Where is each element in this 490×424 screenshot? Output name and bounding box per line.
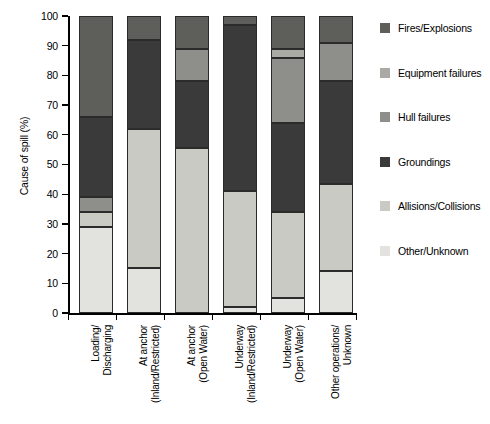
- legend-item-5[interactable]: Allisions/Collisions: [380, 200, 480, 212]
- y-tick-label: 10: [47, 277, 58, 289]
- legend-swatch-icon: [380, 112, 390, 122]
- legend-label: Equipment failures: [398, 67, 481, 79]
- legend-item-1[interactable]: Fires/Explosions: [380, 22, 472, 34]
- x-tick: [212, 313, 213, 320]
- x-axis-label-4: Underway(Inland/Restricted): [234, 325, 257, 424]
- y-axis-line: [68, 16, 70, 313]
- bar-segment: [271, 298, 305, 313]
- x-axis-label-line: (Inland/Restricted): [150, 325, 162, 424]
- legend-item-3[interactable]: Hull failures: [380, 111, 450, 123]
- bar-segment: [175, 16, 209, 49]
- x-axis-label-line: Unknown: [342, 325, 354, 424]
- x-axis-label-1: Loading/Discharging: [90, 325, 113, 424]
- y-tick-label: 80: [47, 69, 58, 81]
- x-axis-label-2: At anchor(Inland/Restricted): [138, 325, 161, 424]
- x-axis-label-line: Discharging: [102, 325, 114, 424]
- x-axis-label-line: (Open Water): [294, 325, 306, 424]
- legend-item-6[interactable]: Other/Unknown: [380, 245, 468, 257]
- bar-segment: [127, 16, 161, 40]
- bar-segment: [223, 191, 257, 307]
- y-tick: 10: [62, 283, 68, 284]
- x-tick: [164, 313, 165, 320]
- y-tick: 70: [62, 104, 68, 105]
- y-tick-label: 30: [47, 218, 58, 230]
- legend-item-4[interactable]: Groundings: [380, 156, 450, 168]
- y-tick: 30: [62, 223, 68, 224]
- x-axis-label-3: At anchor(Open Water): [186, 325, 209, 424]
- x-axis-label-5: Underway(Open Water): [282, 325, 305, 424]
- bar-segment: [271, 123, 305, 212]
- legend-label: Groundings: [398, 156, 450, 168]
- legend-item-2[interactable]: Equipment failures: [380, 67, 481, 79]
- bar-segment: [175, 148, 209, 313]
- y-tick-label: 90: [47, 40, 58, 52]
- bar-segment: [223, 16, 257, 25]
- bar-segment: [223, 25, 257, 191]
- legend-swatch-icon: [380, 157, 390, 167]
- bar-5: [271, 16, 305, 313]
- x-tick: [68, 313, 69, 320]
- y-tick: 60: [62, 134, 68, 135]
- y-tick: 40: [62, 194, 68, 195]
- bar-segment: [271, 16, 305, 49]
- x-axis-label-line: At anchor: [138, 325, 150, 424]
- x-axis-label-line: (Inland/Restricted): [246, 325, 258, 424]
- y-tick: 20: [62, 253, 68, 254]
- bar-segment: [175, 81, 209, 148]
- bar-2: [127, 16, 161, 313]
- bar-segment: [319, 81, 353, 183]
- y-tick: 50: [62, 164, 68, 165]
- bar-segment: [127, 268, 161, 313]
- bar-segment: [271, 49, 305, 58]
- x-axis-label-6: Other operations/Unknown: [330, 325, 353, 424]
- y-axis-title: Cause of spill (%): [18, 86, 30, 226]
- legend-swatch-icon: [380, 246, 390, 256]
- legend-label: Fires/Explosions: [398, 22, 472, 34]
- legend-swatch-icon: [380, 23, 390, 33]
- bar-3: [175, 16, 209, 313]
- y-tick-label: 60: [47, 129, 58, 141]
- y-tick-label: 0: [52, 307, 58, 319]
- bar-segment: [127, 40, 161, 129]
- bar-segment: [319, 43, 353, 82]
- y-tick-label: 20: [47, 248, 58, 260]
- bar-4: [223, 16, 257, 313]
- x-tick: [308, 313, 309, 320]
- bar-1: [79, 16, 113, 313]
- stacked-bar-chart: Cause of spill (%) 010203040506070809010…: [0, 0, 490, 424]
- bar-segment: [175, 49, 209, 82]
- legend-label: Allisions/Collisions: [398, 200, 480, 212]
- y-tick: 90: [62, 45, 68, 46]
- legend-label: Hull failures: [398, 111, 450, 123]
- x-tick: [116, 313, 117, 320]
- bar-segment: [319, 271, 353, 313]
- y-tick-label: 100: [41, 10, 58, 22]
- y-tick: 100: [62, 15, 68, 16]
- y-tick-label: 70: [47, 99, 58, 111]
- y-tick: 80: [62, 75, 68, 76]
- bar-segment: [79, 227, 113, 313]
- bar-segment: [271, 58, 305, 123]
- y-tick-label: 40: [47, 188, 58, 200]
- x-axis-label-line: Other operations/: [330, 325, 342, 424]
- bar-segment: [319, 16, 353, 43]
- bar-6: [319, 16, 353, 313]
- legend-swatch-icon: [380, 68, 390, 78]
- x-axis-label-line: Underway: [234, 325, 246, 424]
- x-axis-label-line: At anchor: [186, 325, 198, 424]
- legend-swatch-icon: [380, 201, 390, 211]
- x-axis-label-line: Loading/: [90, 325, 102, 424]
- plot-area: 0102030405060708090100: [68, 16, 356, 313]
- bar-segment: [79, 117, 113, 197]
- bar-segment: [319, 184, 353, 272]
- bar-segment: [79, 212, 113, 227]
- x-axis-label-line: Underway: [282, 325, 294, 424]
- x-tick: [356, 313, 357, 320]
- y-tick-label: 50: [47, 158, 58, 170]
- bar-segment: [271, 212, 305, 298]
- legend-label: Other/Unknown: [398, 245, 468, 257]
- x-axis-label-line: (Open Water): [198, 325, 210, 424]
- bar-segment: [223, 307, 257, 313]
- bar-segment: [127, 129, 161, 269]
- x-tick: [260, 313, 261, 320]
